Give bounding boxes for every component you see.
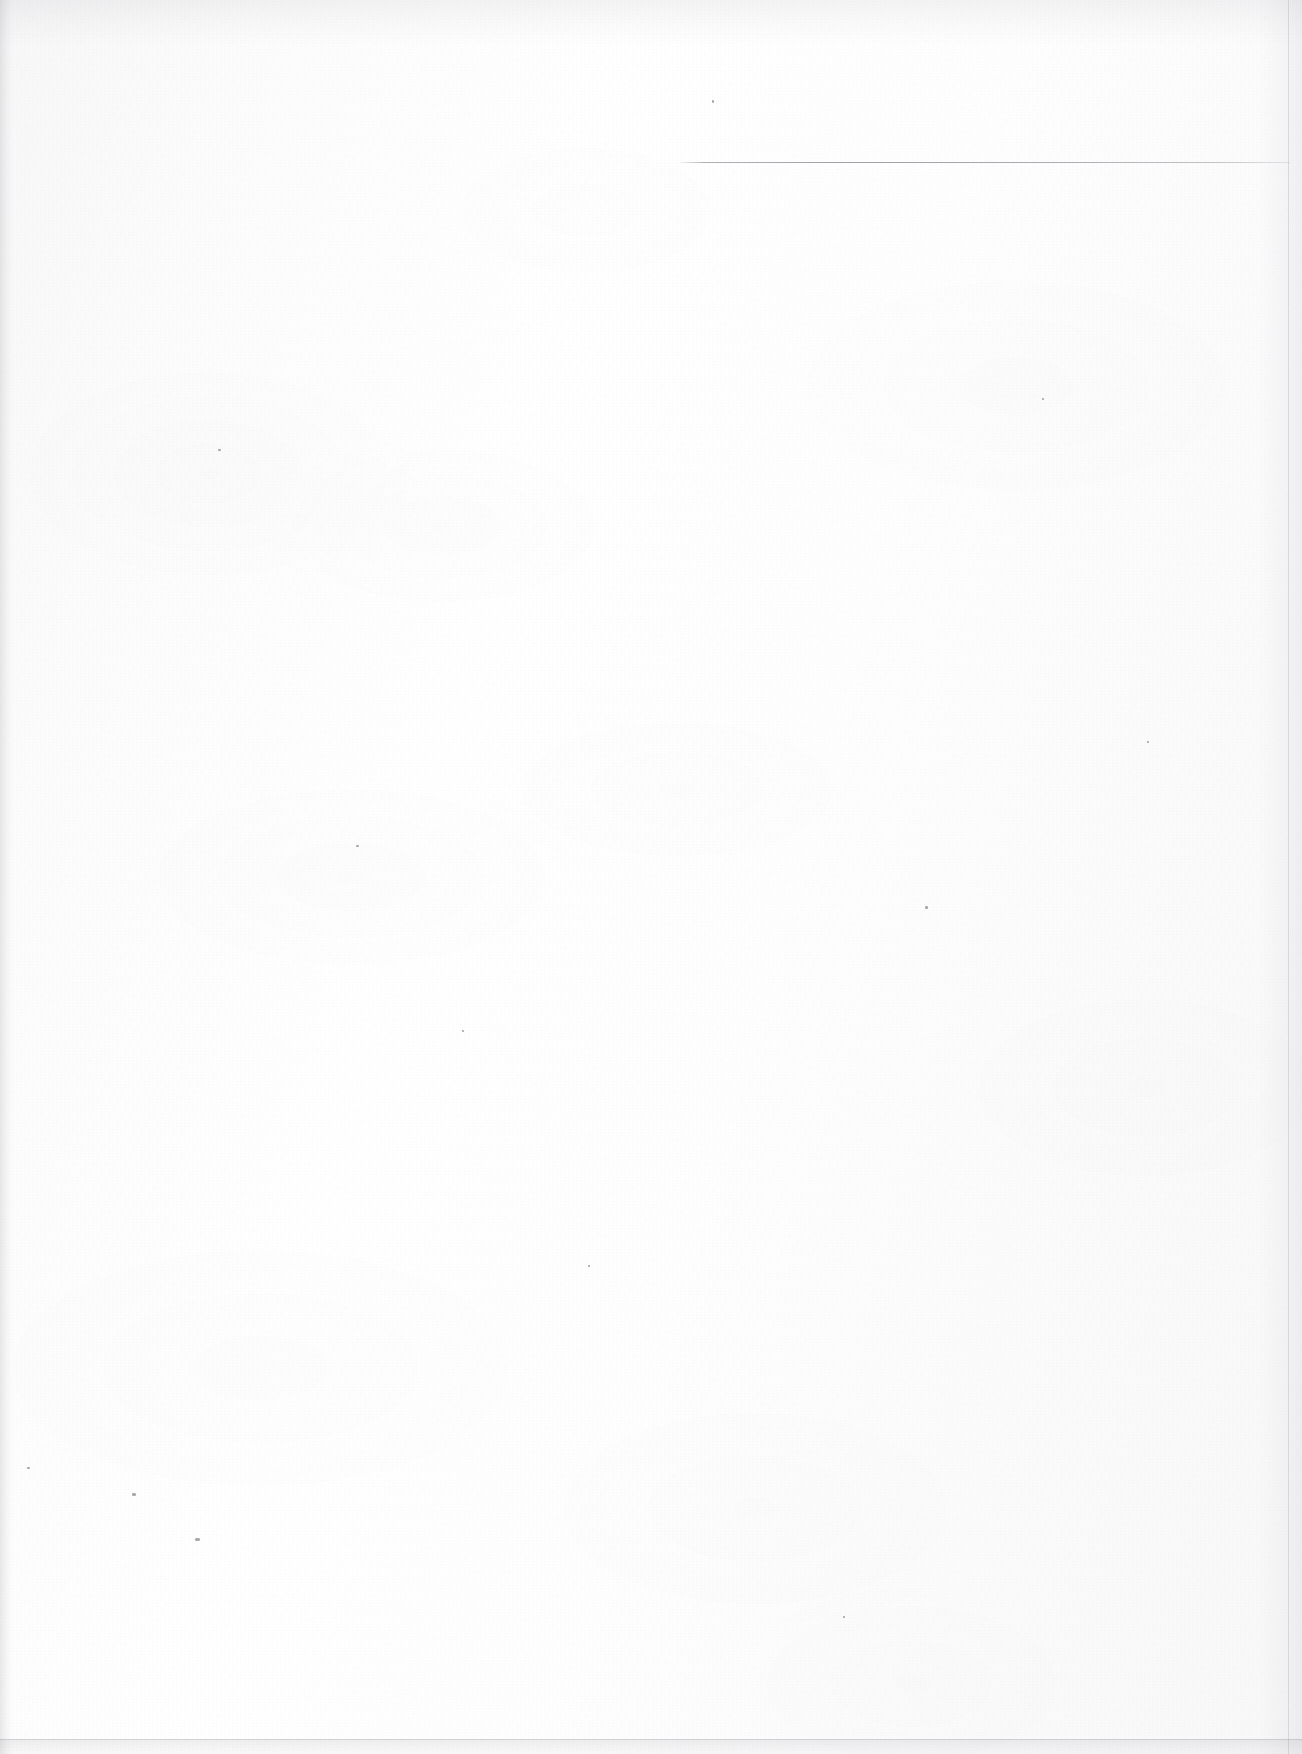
dust-speck: [712, 100, 714, 103]
dust-speck: [843, 1616, 845, 1618]
dust-speck: [1042, 398, 1044, 400]
dust-speck: [27, 1467, 30, 1469]
right-page-edge: [1288, 0, 1289, 1754]
dust-speck: [195, 1538, 200, 1541]
dust-speck: [588, 1265, 590, 1267]
top-edge-tone: [0, 0, 1302, 46]
scanned-page: [0, 0, 1302, 1754]
dust-speck: [1147, 741, 1149, 743]
header-rule: [680, 162, 1290, 163]
dust-speck: [356, 845, 359, 847]
bottom-grey-band: [0, 1740, 1302, 1754]
dust-speck: [462, 1030, 464, 1032]
paper-grain-texture: [0, 0, 1302, 1754]
right-edge-fade: [1258, 0, 1302, 1754]
dust-speck: [132, 1493, 136, 1496]
left-edge-shadow: [0, 0, 13, 1754]
dust-speck: [218, 449, 221, 451]
dust-speck: [925, 906, 928, 909]
